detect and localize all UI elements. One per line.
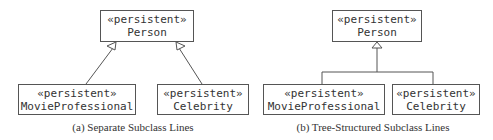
stereotype-label: «persistent» [396, 87, 475, 100]
class-name: Person [357, 26, 397, 39]
stereotype-label: «persistent» [163, 87, 242, 100]
class-box-celebrity: «persistent» Celebrity [158, 85, 249, 115]
uml-diagrams: «persistent» Person «persistent» MoviePr… [0, 0, 493, 140]
stereotype-label: «persistent» [37, 87, 116, 100]
caption-a: (a) Separate Subclass Lines [72, 121, 193, 134]
class-name: MovieProfessional [21, 100, 134, 113]
class-name: Celebrity [173, 100, 233, 113]
branch-line [322, 72, 433, 84]
generalization-line-celebrity [179, 48, 202, 84]
inheritance-arrow-icon [107, 42, 116, 50]
diagram-b: «persistent» Person «persistent» MoviePr… [264, 11, 480, 135]
class-box-movieprofessional: «persistent» MovieProfessional [264, 85, 385, 115]
stereotype-label: «persistent» [337, 13, 416, 26]
caption-b: (b) Tree-Structured Subclass Lines [296, 121, 449, 134]
class-name: Celebrity [406, 100, 466, 113]
inheritance-arrow-icon [372, 42, 382, 48]
class-box-celebrity: «persistent» Celebrity [393, 85, 480, 115]
class-box-movieprofessional: «persistent» MovieProfessional [19, 85, 136, 115]
stereotype-label: «persistent» [107, 13, 186, 26]
class-name: Person [127, 26, 167, 39]
inheritance-arrow-icon [176, 42, 185, 50]
class-box-person: «persistent» Person [333, 11, 422, 42]
stereotype-label: «persistent» [284, 87, 363, 100]
class-box-person: «persistent» Person [101, 11, 194, 42]
generalization-line-movieprofessional [86, 48, 113, 84]
diagram-a: «persistent» Person «persistent» MoviePr… [19, 11, 249, 135]
class-name: MovieProfessional [268, 100, 381, 113]
